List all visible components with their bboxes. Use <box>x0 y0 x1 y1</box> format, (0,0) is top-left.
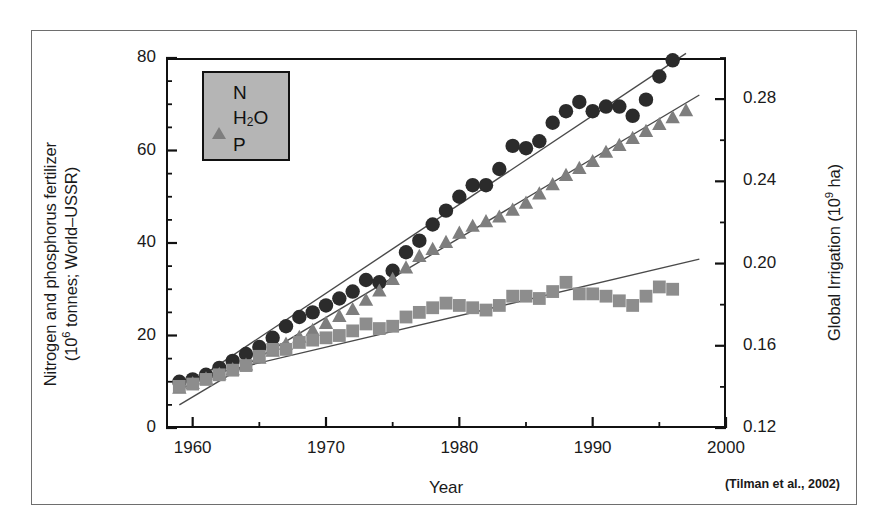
y-axis-left-exponent: 6 <box>61 332 73 338</box>
legend-square-icon <box>211 136 227 152</box>
y-axis-left-tick-80: 80 <box>108 47 156 67</box>
legend-item-n: N <box>211 79 288 105</box>
y-axis-left-title-line2-post: tonnes; World–USSR) <box>62 167 80 332</box>
legend-label-h2o: H2O <box>233 108 268 128</box>
legend-item-h2o: H2O <box>211 105 288 131</box>
x-axis-title: Year <box>166 478 726 498</box>
y-axis-left-title: Nitrogen and phosphorus fertilizer (106 … <box>40 99 82 429</box>
y-axis-right-tick-0_24: 0.24 <box>743 170 803 190</box>
y-axis-right-tick-0_2: 0.20 <box>743 253 803 273</box>
x-axis-tick-2000: 2000 <box>691 438 761 458</box>
legend-triangle-icon <box>211 110 227 126</box>
y-axis-left-tick-20: 20 <box>108 325 156 345</box>
y-axis-left-tick-0: 0 <box>108 417 156 437</box>
y-axis-left-title-line1: Nitrogen and phosphorus fertilizer <box>41 142 59 386</box>
source-citation: (Tilman et al., 2002) <box>725 477 840 491</box>
y-axis-right-tick-0_16: 0.16 <box>743 335 803 355</box>
legend-circle-icon <box>211 84 227 100</box>
legend-label-p: P <box>233 135 246 154</box>
legend-label-n: N <box>233 83 247 102</box>
y-axis-right-title: Global Irrigation (109 ha) <box>825 88 844 418</box>
y-axis-right-tick-0_12: 0.12 <box>743 417 803 437</box>
y-axis-right-title-pre: Global Irrigation (10 <box>825 198 843 341</box>
y-axis-right-title-post: ha) <box>825 164 843 192</box>
y-axis-left-tick-40: 40 <box>108 232 156 252</box>
y-axis-right-tick-0_28: 0.28 <box>743 88 803 108</box>
chart-legend: N H2O P <box>202 71 290 161</box>
y-axis-right-exponent: 9 <box>823 192 835 198</box>
x-axis-tick-1970: 1970 <box>291 438 361 458</box>
figure-root: 020406080 0.120.160.200.240.28 196019701… <box>0 0 888 532</box>
x-axis-tick-1990: 1990 <box>558 438 628 458</box>
x-axis-tick-1960: 1960 <box>158 438 228 458</box>
y-axis-left-title-line2-pre: (10 <box>62 338 80 362</box>
x-axis-tick-1980: 1980 <box>424 438 494 458</box>
y-axis-left-tick-60: 60 <box>108 140 156 160</box>
